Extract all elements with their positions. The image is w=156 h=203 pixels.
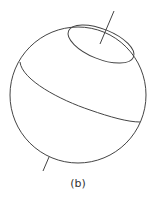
- axis-top-line: [100, 11, 114, 44]
- sphere-svg: [0, 0, 156, 203]
- sphere-outline: [10, 27, 146, 163]
- great-circle-band: [20, 62, 140, 122]
- figure-caption: (b): [0, 177, 156, 190]
- polar-small-circle: [63, 17, 139, 71]
- sphere-diagram: (b): [0, 0, 156, 203]
- axis-bottom-tick: [43, 157, 49, 171]
